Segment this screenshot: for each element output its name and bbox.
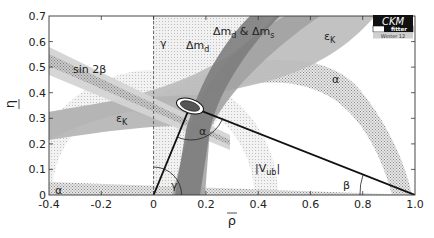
svg-text:1.0: 1.0: [406, 198, 424, 211]
label-alpha-right: α: [332, 73, 339, 86]
label-dmd-dms: Δmd & Δms: [213, 25, 274, 40]
svg-text:0.4: 0.4: [249, 198, 267, 211]
svg-text:ρ: ρ: [228, 213, 236, 228]
svg-text:0.7: 0.7: [29, 10, 47, 23]
label-gamma-angle: γ: [171, 179, 178, 192]
svg-text:fitter: fitter: [391, 26, 407, 32]
x-axis-title: ρ: [227, 213, 237, 228]
svg-text:0.5: 0.5: [29, 61, 47, 74]
plot-area: [28, 16, 415, 195]
svg-text:0.4: 0.4: [29, 87, 47, 100]
svg-text:0: 0: [39, 189, 46, 202]
svg-text:0: 0: [150, 198, 157, 211]
label-sin2beta: sin 2β: [73, 63, 106, 76]
svg-text:0.2: 0.2: [197, 198, 215, 211]
svg-text:0.6: 0.6: [302, 198, 320, 211]
svg-text:CKM: CKM: [382, 16, 405, 27]
ckm-unitarity-triangle-chart: -0.4 -0.2 0 0.2 0.4 0.6 0.8 1.0 0 0.1 0.…: [0, 0, 434, 238]
svg-text:-0.2: -0.2: [91, 198, 112, 211]
x-tick-labels: -0.4 -0.2 0 0.2 0.4 0.6 0.8 1.0: [38, 198, 423, 211]
y-axis-title: η: [2, 99, 19, 109]
svg-text:0.3: 0.3: [29, 112, 47, 125]
ckmfitter-logo: CKM fitter Winter 12: [373, 15, 413, 39]
svg-text:0.1: 0.1: [29, 163, 47, 176]
svg-text:η: η: [2, 100, 17, 108]
svg-text:0.8: 0.8: [354, 198, 372, 211]
label-beta-angle: β: [343, 179, 350, 192]
label-alpha-bottomleft: α: [55, 184, 62, 197]
svg-text:Winter 12: Winter 12: [381, 33, 405, 39]
label-gamma-top: γ: [160, 37, 167, 50]
svg-text:0.2: 0.2: [29, 138, 47, 151]
svg-text:0.6: 0.6: [29, 36, 47, 49]
y-tick-labels: 0 0.1 0.2 0.3 0.4 0.5 0.6 0.7: [29, 10, 47, 202]
label-alpha-angle: α: [199, 125, 206, 138]
